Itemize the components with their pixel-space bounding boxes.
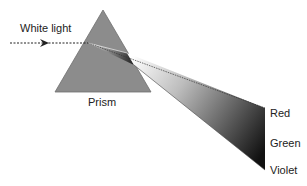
green-label: Green (270, 137, 301, 149)
white-light-label: White light (20, 22, 71, 34)
arrow-icon (40, 39, 49, 47)
prism-label: Prism (88, 96, 116, 108)
prism-diagram: White light Prism Red Green Violet (0, 0, 307, 186)
violet-label: Violet (270, 164, 297, 176)
dispersed-spectrum (127, 53, 265, 170)
red-label: Red (270, 107, 290, 119)
